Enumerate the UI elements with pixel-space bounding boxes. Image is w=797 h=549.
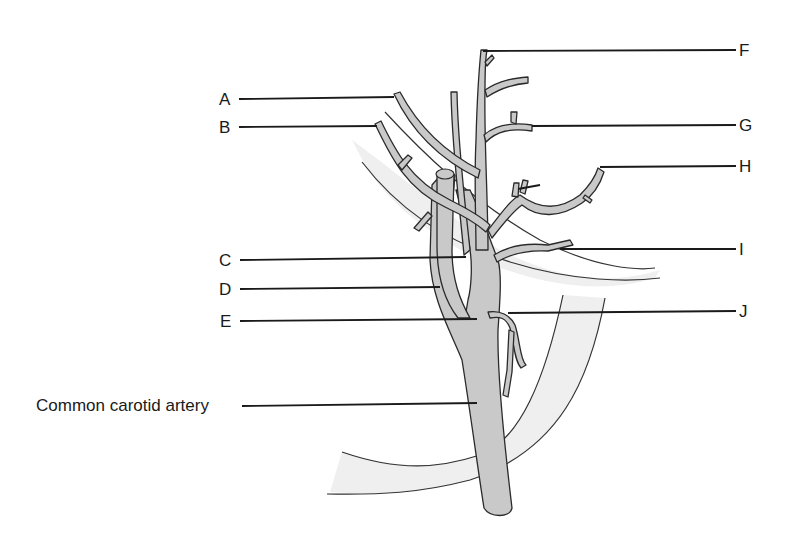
label-f: F [739, 42, 749, 59]
leader-b [239, 126, 377, 127]
leader-g [532, 125, 736, 126]
leader-d [240, 287, 440, 289]
label-g: G [739, 117, 752, 134]
label-i: I [739, 241, 744, 258]
g-branch [484, 124, 532, 142]
h-branch [488, 168, 604, 238]
leader-j [508, 311, 736, 313]
label-a: A [219, 91, 230, 108]
leader-h [600, 166, 736, 167]
leader-a [239, 97, 394, 99]
leader-e [240, 319, 477, 321]
label-d: D [219, 281, 231, 298]
label-e: E [220, 313, 231, 330]
leader-f [483, 50, 736, 51]
leader-common-carotid [242, 403, 477, 406]
carotid-diagram [0, 0, 797, 549]
label-c: C [219, 252, 231, 269]
label-common-carotid-artery: Common carotid artery [36, 397, 209, 414]
label-h: H [739, 158, 751, 175]
label-b: B [219, 119, 230, 136]
label-j: J [739, 303, 748, 320]
